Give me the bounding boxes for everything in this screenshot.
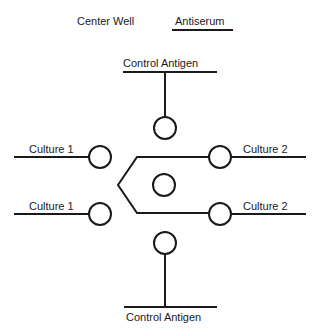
diagram-canvas: [0, 0, 317, 336]
left-lower-label: Culture 1: [29, 200, 74, 213]
center-well: [153, 174, 175, 196]
antiserum-header: Antiserum: [175, 15, 225, 28]
right-lower-label: Culture 2: [243, 200, 288, 213]
immunodiffusion-diagram: Center Well Antiserum Control Antigen Cu…: [0, 0, 317, 336]
top-well: [154, 117, 176, 139]
top-control-antigen-label: Control Antigen: [123, 57, 198, 70]
right-upper-well: [209, 146, 231, 168]
center-well-header: Center Well: [77, 15, 134, 28]
right-upper-label: Culture 2: [243, 143, 288, 156]
left-lower-well: [89, 203, 111, 225]
right-lower-well: [209, 203, 231, 225]
bottom-control-antigen-label: Control Antigen: [126, 311, 201, 324]
left-upper-label: Culture 1: [29, 143, 74, 156]
bottom-well: [154, 232, 176, 254]
left-upper-well: [89, 146, 111, 168]
